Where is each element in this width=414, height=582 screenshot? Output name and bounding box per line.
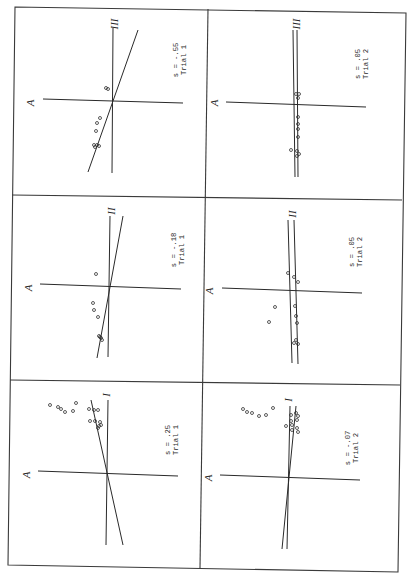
reference-axis-label: III (290, 17, 302, 30)
data-point (265, 414, 268, 417)
figure-panel-grid: AIIIs = -.55Trial 1AIIIs = .05Trial 2AII… (0, 0, 414, 582)
data-point (92, 302, 95, 305)
trial-label: Trial 2 (356, 237, 364, 267)
axis-a-line (226, 102, 366, 107)
data-point (272, 407, 275, 410)
data-point (297, 281, 300, 284)
data-point (291, 424, 294, 427)
trial-label: Trial 1 (172, 425, 180, 455)
trial-label: Trial 1 (178, 235, 186, 265)
fitted-line (91, 400, 123, 545)
data-point (96, 122, 99, 125)
data-point (251, 412, 254, 415)
data-point (274, 306, 277, 309)
data-point (57, 406, 60, 409)
statistic-label: s = -.07Trial 2 (344, 431, 360, 466)
scatter-panels: AIIIs = -.55Trial 1AIIIs = .05Trial 2AII… (20, 17, 370, 549)
reference-axis-line (288, 220, 292, 363)
data-point (290, 149, 293, 152)
axis-a-label: A (208, 99, 220, 107)
data-point (293, 276, 296, 279)
data-point (291, 429, 294, 432)
s-value: s = -.18 (170, 233, 178, 268)
s-value: s = -.07 (344, 431, 352, 466)
scatter-panel-ii-trial-1: AIIs = -.18Trial 1 (22, 206, 186, 358)
data-point (296, 427, 299, 430)
data-point (60, 408, 63, 411)
data-point (246, 411, 249, 414)
row-divider-bottom (10, 380, 400, 385)
data-point (99, 117, 102, 120)
trial-label: Trial 2 (362, 49, 370, 79)
data-point (95, 130, 98, 133)
scatter-panel-ii-trial-2: AIIs = .05Trial 2 (203, 209, 364, 364)
data-point (72, 410, 75, 413)
scatter-panel-iii-trial-1: AIIIs = -.55Trial 1 (24, 17, 188, 173)
axis-a-label: A (203, 287, 215, 295)
statistic-label: s = .05Trial 2 (348, 237, 364, 267)
data-point (297, 431, 300, 434)
data-point (242, 408, 245, 411)
data-point (95, 273, 98, 276)
data-point (297, 415, 300, 418)
statistic-label: s = -.55Trial 1 (172, 43, 188, 78)
scatter-panel-i-trial-2: AIs = -.07Trial 2 (202, 397, 360, 549)
reference-axis-label: II (286, 209, 298, 219)
s-value: s = -.55 (172, 43, 180, 78)
data-point (88, 408, 91, 411)
data-point (64, 411, 67, 414)
s-value: s = .05 (348, 237, 356, 267)
data-point (298, 93, 301, 96)
reference-axis-label: III (108, 17, 120, 30)
data-point (89, 420, 92, 423)
statistic-label: s = .05Trial 2 (354, 49, 370, 79)
data-point (93, 309, 96, 312)
trial-label: Trial 2 (352, 433, 360, 463)
axis-a-label: A (22, 284, 34, 292)
reference-axis-line (293, 30, 295, 177)
data-point (75, 402, 78, 405)
data-point (258, 415, 261, 418)
trial-label: Trial 1 (180, 45, 188, 75)
data-point (268, 321, 271, 324)
s-value: s = .05 (354, 49, 362, 79)
axis-a-label: A (24, 99, 36, 107)
statistic-label: s = .25Trial 1 (164, 425, 180, 455)
data-point (99, 421, 102, 424)
axis-a-line (220, 475, 360, 480)
scatter-panel-iii-trial-2: AIIIs = .05Trial 2 (208, 17, 370, 177)
reference-axis-label: II (105, 206, 117, 216)
statistic-label: s = -.18Trial 1 (170, 233, 186, 268)
data-point (97, 316, 100, 319)
row-divider-top (12, 195, 402, 200)
data-point (297, 97, 300, 100)
data-point (285, 425, 288, 428)
data-point (97, 409, 100, 412)
axis-a-line (222, 288, 362, 293)
data-point (49, 404, 52, 407)
reference-axis-label: I (282, 397, 294, 403)
axis-a-label: A (202, 474, 214, 482)
data-point (293, 342, 296, 345)
scatter-panel-i-trial-1: AIs = .25Trial 1 (20, 392, 180, 545)
data-point (296, 419, 299, 422)
axis-a-label: A (20, 471, 32, 479)
s-value: s = .25 (164, 425, 172, 455)
reference-axis-label: I (100, 392, 112, 398)
